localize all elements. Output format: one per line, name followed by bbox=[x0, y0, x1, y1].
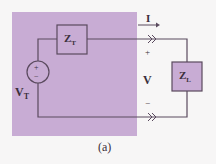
source-label: VT bbox=[15, 86, 29, 101]
voltage-plus: + bbox=[145, 48, 150, 57]
figure-caption: (a) bbox=[98, 141, 111, 153]
source-minus: − bbox=[34, 73, 39, 81]
source-plus: + bbox=[34, 64, 39, 72]
voltage-label: V bbox=[143, 74, 152, 86]
voltage-minus: − bbox=[145, 99, 150, 108]
zl-label: ZL bbox=[179, 70, 191, 84]
zt-label: ZT bbox=[64, 33, 76, 47]
current-label: I bbox=[146, 13, 150, 24]
current-arrowhead-icon bbox=[156, 23, 160, 28]
